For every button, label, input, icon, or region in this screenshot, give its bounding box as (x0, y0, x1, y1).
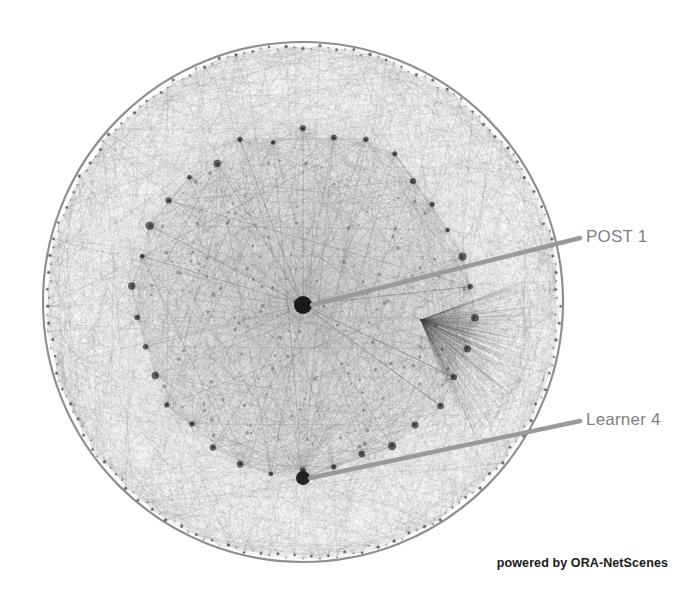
network-graph-svg (0, 0, 690, 605)
node-label-post-1[interactable]: POST 1 (586, 228, 647, 245)
network-node-post-1[interactable] (294, 296, 312, 314)
node-label-learner-4[interactable]: Learner 4 (586, 411, 661, 428)
ora-netscenes-watermark: powered by ORA-NetScenes (497, 556, 668, 570)
network-visualization-canvas: POST 1 Learner 4 powered by ORA-NetScene… (0, 0, 690, 605)
